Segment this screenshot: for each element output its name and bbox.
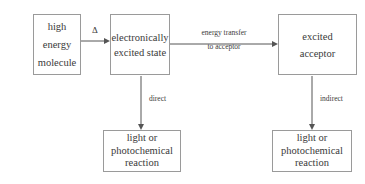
box-electronically-excited-state-line-2: excited state: [114, 45, 166, 60]
box-direct-photochemical-reaction-line-3: reaction: [125, 157, 159, 170]
box-excited-acceptor-line-2: acceptor: [300, 45, 336, 62]
box-indirect-photochemical-reaction-line-1: light or: [297, 132, 328, 145]
box-direct-photochemical-reaction-line-1: light or: [127, 132, 158, 145]
arrow-label-indirect: indirect: [320, 94, 343, 103]
box-electronically-excited-state-line-1: electronically: [111, 30, 168, 45]
flowchart-canvas: high energy molecule Δ electronically ex…: [0, 0, 365, 184]
arrow-heat: [81, 36, 110, 46]
box-high-energy-molecule-line-3: molecule: [38, 54, 76, 72]
box-indirect-photochemical-reaction: light or photochemical reaction: [272, 130, 352, 172]
box-high-energy-molecule: high energy molecule: [33, 14, 81, 75]
arrow-label-energy-transfer-line-2: to acceptor: [178, 42, 270, 51]
box-indirect-photochemical-reaction-line-2: photochemical: [281, 145, 343, 158]
arrow-indirect: [307, 76, 317, 130]
arrow-direct: [136, 76, 146, 130]
arrow-label-energy-transfer-line-1: energy transfer: [178, 28, 270, 37]
box-direct-photochemical-reaction-line-2: photochemical: [111, 145, 173, 158]
box-high-energy-molecule-line-2: energy: [43, 36, 71, 54]
box-electronically-excited-state: electronically excited state: [110, 14, 170, 75]
box-direct-photochemical-reaction: light or photochemical reaction: [103, 130, 181, 172]
box-excited-acceptor: excited acceptor: [278, 14, 357, 75]
arrow-label-heat: Δ: [83, 25, 107, 35]
arrow-label-direct: direct: [149, 94, 166, 103]
box-high-energy-molecule-line-1: high: [48, 18, 67, 36]
box-excited-acceptor-line-1: excited: [302, 28, 332, 45]
box-indirect-photochemical-reaction-line-3: reaction: [295, 157, 329, 170]
